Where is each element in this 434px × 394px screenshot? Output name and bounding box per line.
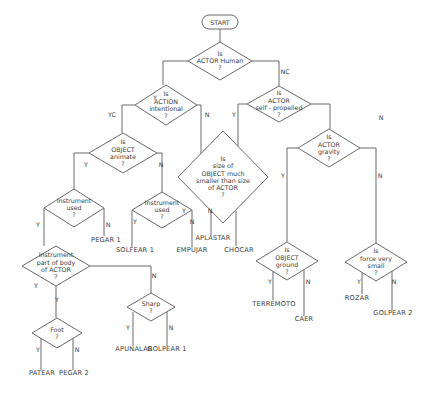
- decision-text: intentional: [149, 105, 183, 112]
- outcome-pegar-2: PEGAR 2: [59, 369, 89, 377]
- decision-text: ACTION: [154, 98, 178, 105]
- branch-label: Y: [125, 324, 130, 331]
- decision-instrument_used_1: instrumentused?: [44, 189, 104, 227]
- branch-label: N: [159, 161, 164, 168]
- decision-actor_self_propelled: IsACTORself - propelled?: [247, 86, 311, 122]
- connector-body-no: [90, 266, 151, 293]
- connector-animate-no: [157, 153, 162, 192]
- decision-text: ?: [160, 213, 163, 220]
- decision-text: instrument: [145, 199, 180, 206]
- decision-text: Is: [326, 133, 331, 140]
- decision-text: of ACTOR: [41, 266, 71, 273]
- connector-human-no: [252, 61, 279, 86]
- connector-animate-yes: [74, 153, 89, 189]
- decision-text: ?: [164, 112, 167, 119]
- branch-label: N: [208, 207, 213, 214]
- decision-text: used: [66, 204, 81, 211]
- branch-label: NC: [280, 68, 290, 75]
- branch-label: Y: [33, 282, 38, 289]
- decision-text: Instrument: [39, 251, 74, 258]
- outcome-chocar: CHOCAR: [224, 246, 254, 254]
- branch-label: Y: [35, 221, 40, 228]
- connector-gravity-no: [360, 148, 376, 243]
- connector-self-propelled-no: [311, 104, 330, 129]
- branch-label: N: [190, 218, 195, 225]
- branch-label: Y: [231, 111, 236, 118]
- outcome-golpear-2: GOLPEAR 2: [373, 309, 412, 317]
- branch-label: N: [169, 324, 174, 331]
- decision-text: Is: [217, 50, 222, 57]
- branch-label: N: [205, 111, 210, 118]
- decision-text: animate: [110, 153, 136, 160]
- branch-label: N: [378, 172, 383, 179]
- decision-foot: Foot?: [32, 318, 82, 348]
- decision-text: ACTOR: [268, 97, 290, 104]
- decision-text: ?: [121, 160, 124, 167]
- decision-object_animate: IsOBJECTanimate?: [89, 133, 157, 173]
- branch-label: N: [152, 272, 157, 279]
- decision-text: ?: [285, 268, 288, 275]
- connector-intentional-yes: [122, 105, 135, 133]
- branch-label: Y: [267, 278, 272, 285]
- connector-self-propelled-yes: [238, 104, 247, 146]
- decision-nodes: IsACTOR Human?IsACTIONintentional?IsACTO…: [22, 42, 407, 348]
- decision-text: ?: [221, 191, 224, 198]
- decision-actor_human: IsACTOR Human?: [188, 42, 252, 80]
- branch-label: N: [392, 278, 397, 285]
- decision-object_ground: IsOBJECTground?: [256, 242, 318, 280]
- outcome-empujar: EMPUJAR: [177, 246, 208, 254]
- connector-gravity-yes: [287, 148, 298, 242]
- decision-text: used: [154, 206, 169, 213]
- outcome-terremoto: TERREMOTO: [251, 300, 295, 308]
- branch-label: Y: [54, 296, 59, 303]
- branch-label: Y: [356, 278, 361, 285]
- decision-text: Foot: [50, 326, 64, 333]
- outcome-pegar-1: PEGAR 1: [91, 236, 121, 244]
- decision-text: ?: [72, 211, 75, 218]
- decision-text: Is: [373, 247, 378, 254]
- start-node: START: [202, 15, 238, 29]
- decision-text: of ACTOR: [208, 184, 238, 191]
- decision-force_small: Isforce verysmall?: [345, 243, 407, 281]
- outcome-rozar: ROZAR: [345, 294, 370, 302]
- branch-label: Y: [83, 161, 88, 168]
- decision-text: Is: [220, 155, 225, 162]
- decision-text: Is: [163, 90, 168, 97]
- decision-text: ACTOR: [318, 141, 340, 148]
- decision-text: Is: [120, 138, 125, 145]
- branch-label: YC: [107, 111, 117, 118]
- decision-actor_gravity: IsACTORgravity?: [298, 129, 360, 167]
- connector-intentional-no: [197, 105, 201, 155]
- flowchart-canvas: START IsACTOR Human?IsACTIONintentional?…: [0, 0, 434, 394]
- outcome-solfear-1: SOLFEAR 1: [116, 246, 154, 254]
- decision-text: ACTOR Human: [197, 57, 243, 64]
- branch-label: Y: [280, 172, 285, 179]
- connector-human-yes: [163, 61, 188, 85]
- outcome-caer: CAER: [295, 315, 314, 323]
- outcome-golpear-1: GOLPEAR 1: [147, 345, 186, 353]
- decision-text: ?: [55, 333, 58, 340]
- branch-label: N: [379, 114, 384, 121]
- branch-label: Y: [132, 218, 137, 225]
- branch-label: N: [75, 346, 80, 353]
- decision-text: smaller than size: [196, 177, 250, 184]
- decision-text: ?: [327, 155, 330, 162]
- decision-text: Is: [284, 246, 289, 253]
- outcome-patear: PATEAR: [29, 369, 55, 377]
- decision-text: instrument: [57, 197, 92, 204]
- decision-text: size of: [213, 162, 234, 169]
- decision-text: ?: [54, 273, 57, 280]
- decision-action_intentional: IsACTIONintentional?: [135, 85, 197, 125]
- outcome-aplastar: APLASTAR: [195, 234, 230, 242]
- branch-label: N: [106, 221, 111, 228]
- branch-label: N: [306, 278, 311, 285]
- decision-text: Is: [276, 89, 281, 96]
- decision-text: ?: [218, 64, 221, 71]
- decision-text: ?: [149, 307, 152, 314]
- decision-sharp: Sharp?: [127, 293, 175, 321]
- branch-label: Y: [181, 207, 186, 214]
- decision-text: ?: [374, 269, 377, 276]
- branch-label: Y: [35, 346, 40, 353]
- decision-text: ?: [277, 111, 280, 118]
- decision-instrument_body: Instrumentpart of bodyof ACTOR?: [22, 246, 90, 286]
